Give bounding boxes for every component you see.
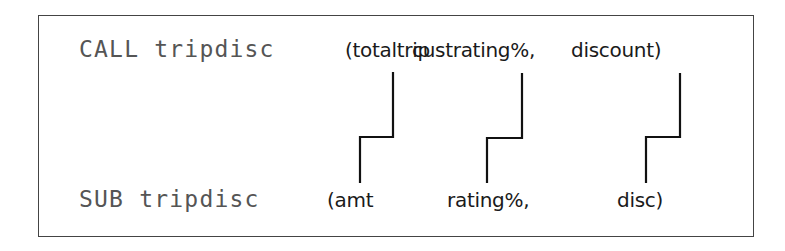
parameter-connectors: [0, 0, 785, 251]
connector-totaltrip-to-amt: [360, 72, 393, 183]
connector-discount-to-disc: [646, 73, 680, 183]
connector-custrating-to-rating: [487, 73, 522, 183]
